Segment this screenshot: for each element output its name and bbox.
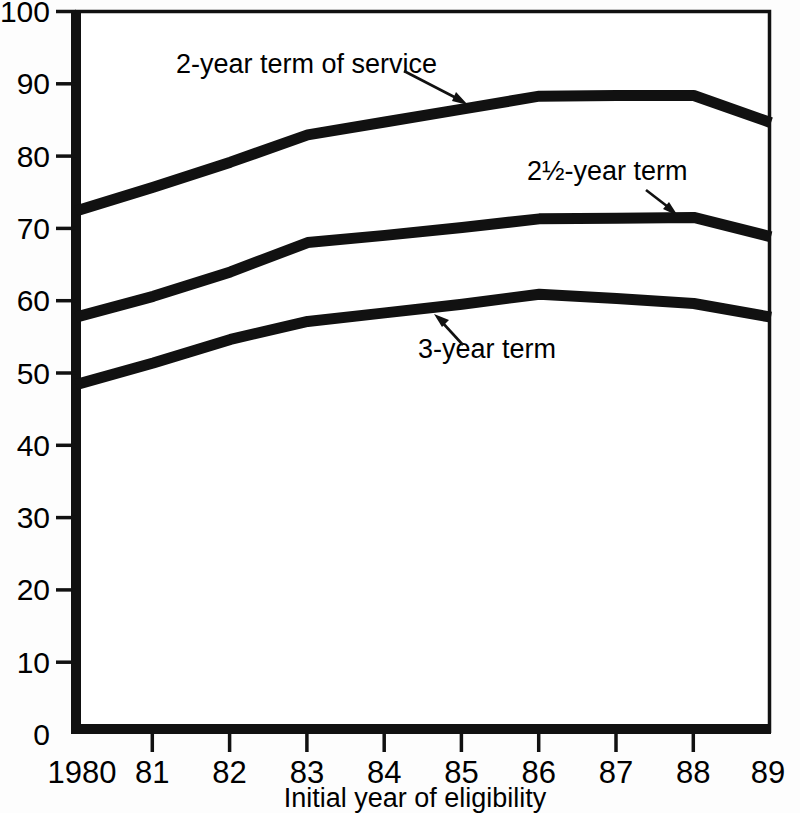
y-tick-label-90: 90	[17, 67, 50, 100]
line-chart: 100 90 80 70 60 50 40 30 20 10 0 1980 81	[0, 0, 800, 813]
x-tick-label-1980: 1980	[48, 755, 117, 790]
y-tick-label-20: 20	[17, 573, 50, 606]
series-label-3-year: 3-year term	[418, 334, 556, 364]
series-label-2-year: 2-year term of service	[176, 49, 437, 79]
y-tick-label-100: 100	[0, 0, 50, 28]
y-tick-label-30: 30	[17, 501, 50, 534]
y-axis-tick-labels: 100 90 80 70 60 50 40 30 20 10 0	[0, 0, 50, 751]
y-tick-label-10: 10	[17, 646, 50, 679]
y-tick-label-80: 80	[17, 140, 50, 173]
x-tick-marks	[152, 734, 693, 752]
series-label-2-5-year: 2½-year term	[527, 156, 688, 186]
y-tick-label-60: 60	[17, 284, 50, 317]
y-tick-label-40: 40	[17, 429, 50, 462]
y-tick-label-50: 50	[17, 357, 50, 390]
x-tick-label-82: 82	[212, 755, 246, 790]
x-tick-label-81: 81	[135, 755, 169, 790]
x-tick-label-88: 88	[676, 755, 710, 790]
x-axis-title: Initial year of eligibility	[284, 783, 547, 813]
y-tick-label-0: 0	[33, 718, 50, 751]
chart-container: 100 90 80 70 60 50 40 30 20 10 0 1980 81	[0, 0, 800, 813]
x-tick-label-89: 89	[751, 755, 785, 790]
y-tick-label-70: 70	[17, 212, 50, 245]
x-tick-label-87: 87	[599, 755, 633, 790]
